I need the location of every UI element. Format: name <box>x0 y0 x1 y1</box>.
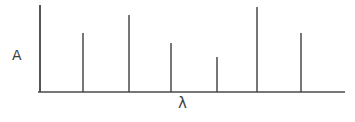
x-axis-label: λ <box>178 96 187 111</box>
spectral-lines-group <box>40 5 301 92</box>
y-axis-label: A <box>12 48 22 62</box>
line-spectrum-figure: A λ <box>0 0 355 122</box>
axes-group <box>38 5 345 92</box>
